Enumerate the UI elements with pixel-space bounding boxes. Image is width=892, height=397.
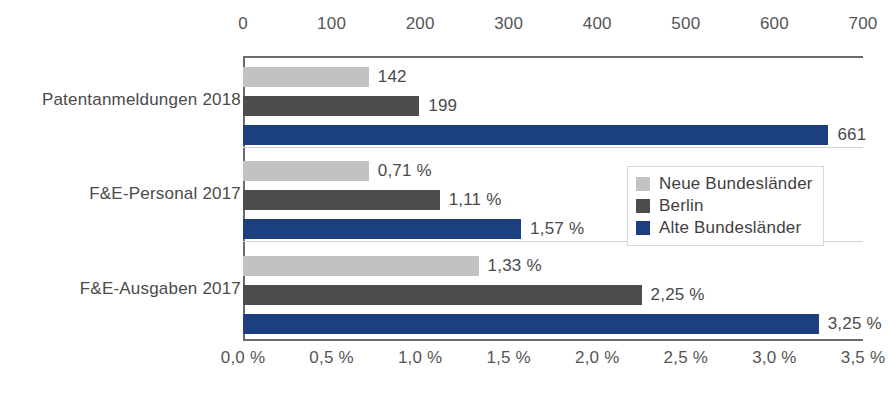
bottom-axis-tick-label: 3,0 % (752, 348, 796, 368)
top-axis-tick-label: 500 (671, 14, 700, 34)
bar-value-label: 1,11 % (449, 190, 502, 210)
top-axis-tick-label: 300 (494, 14, 523, 34)
category-label: F&E-Personal 2017 (89, 184, 241, 204)
bar-chart: 0100200300400500600700 0,0 %0,5 %1,0 %1,… (0, 0, 892, 397)
bar-0 (243, 256, 479, 276)
bar-value-label: 1,33 % (488, 256, 542, 276)
category-label: F&E-Ausgaben 2017 (80, 279, 241, 299)
bar-1 (243, 96, 419, 116)
top-axis-tick-label: 600 (760, 14, 789, 34)
top-axis-tick-label: 700 (849, 14, 878, 34)
bar-group: 142199661 (243, 59, 863, 147)
bar-value-label: 1,57 % (530, 219, 584, 239)
legend-item: Berlin (636, 195, 813, 217)
bar-value-label: 3,25 % (828, 314, 882, 334)
top-axis-tick-label: 100 (317, 14, 346, 34)
bar-1 (243, 190, 440, 210)
group-separator (243, 147, 863, 148)
bar-value-label: 199 (428, 96, 457, 116)
bar-1 (243, 285, 642, 305)
top-axis-tick-label: 400 (583, 14, 612, 34)
legend-label: Alte Bundesländer (659, 218, 801, 238)
top-axis-tick-label: 0 (238, 14, 248, 34)
bar-0 (243, 161, 369, 181)
bar-0 (243, 67, 369, 87)
category-label: Patentanmeldungen 2018 (42, 90, 241, 110)
legend-label: Berlin (659, 196, 704, 216)
bottom-axis-tick-label: 2,0 % (575, 348, 619, 368)
bottom-axis-tick-label: 0,0 % (221, 348, 265, 368)
legend: Neue BundesländerBerlinAlte Bundesländer (627, 166, 824, 246)
bottom-axis-line (243, 339, 863, 341)
bottom-axis-tick-label: 1,5 % (486, 348, 530, 368)
legend-swatch-icon (636, 199, 650, 213)
bottom-axis-tick-label: 2,5 % (664, 348, 708, 368)
bottom-axis-tick-label: 3,5 % (841, 348, 885, 368)
bar-2 (243, 219, 521, 239)
bar-group: 1,33 %2,25 %3,25 % (243, 248, 863, 336)
top-axis-tick-label: 200 (406, 14, 435, 34)
bar-2 (243, 125, 828, 145)
legend-swatch-icon (636, 177, 650, 191)
bottom-axis-tick-label: 0,5 % (309, 348, 353, 368)
bottom-axis-tick-label: 1,0 % (398, 348, 442, 368)
legend-swatch-icon (636, 221, 650, 235)
legend-label: Neue Bundesländer (659, 174, 813, 194)
bar-value-label: 661 (837, 125, 866, 145)
bar-value-label: 0,71 % (378, 161, 432, 181)
legend-item: Neue Bundesländer (636, 173, 813, 195)
bar-2 (243, 314, 819, 334)
bar-value-label: 2,25 % (651, 285, 705, 305)
bar-value-label: 142 (378, 67, 407, 87)
legend-item: Alte Bundesländer (636, 217, 813, 239)
